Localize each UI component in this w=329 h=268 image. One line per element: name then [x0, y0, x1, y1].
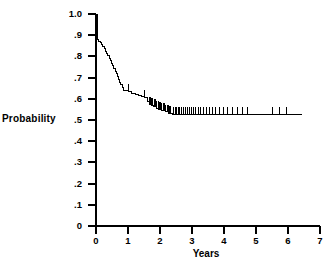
x-tick-label: 3 [184, 236, 200, 246]
y-tick-label: .1 [48, 200, 82, 210]
y-tick-label: .9 [48, 30, 82, 40]
x-tick-label: 4 [216, 236, 232, 246]
axes [96, 14, 320, 226]
y-tick-label: .6 [48, 94, 82, 104]
y-axis-tick-marks [88, 14, 96, 226]
survival-curve-path [96, 14, 302, 114]
x-tick-label: 6 [280, 236, 296, 246]
x-tick-label: 7 [312, 236, 328, 246]
x-tick-label: 0 [88, 236, 104, 246]
kaplan-meier-figure: Probability Years 0.1.2.3.4.5.6.7.8.91.0… [0, 0, 329, 268]
survival-step-curve [96, 14, 302, 114]
y-tick-label: .5 [48, 115, 82, 125]
y-tick-label: 1.0 [48, 9, 82, 19]
y-tick-label: .4 [48, 136, 82, 146]
y-tick-label: .7 [48, 73, 82, 83]
x-tick-label: 2 [152, 236, 168, 246]
y-tick-label: 0 [48, 221, 82, 231]
x-axis-tick-marks [96, 226, 320, 234]
y-tick-label: .8 [48, 51, 82, 61]
x-tick-label: 5 [248, 236, 264, 246]
x-tick-label: 1 [120, 236, 136, 246]
x-axis-label: Years [171, 248, 241, 260]
censoring-tick-marks [128, 84, 287, 115]
y-tick-label: .2 [48, 179, 82, 189]
y-tick-label: .3 [48, 157, 82, 167]
